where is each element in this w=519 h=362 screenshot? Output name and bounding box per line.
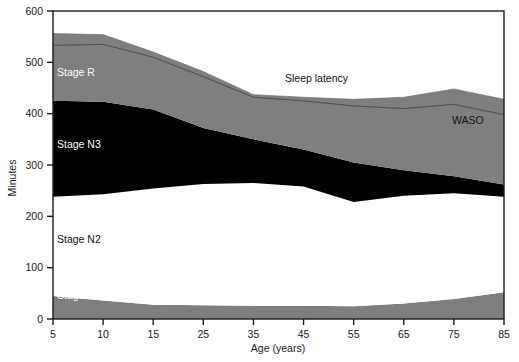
x-tick-label-55: 55 [348, 328, 360, 340]
y-axis-title: Minutes [6, 160, 18, 197]
stage-r-label: Stage R [57, 66, 95, 78]
stage-n2-area [53, 183, 504, 306]
y-tick-label-100: 100 [25, 261, 43, 273]
y-tick-label-200: 200 [25, 210, 43, 222]
y-tick-label-0: 0 [37, 313, 43, 325]
y-tick-label-500: 500 [25, 56, 43, 68]
y-tick-label-300: 300 [25, 159, 43, 171]
stage-n1-label: Stage N1 [57, 289, 101, 301]
x-tick-label-10: 10 [97, 328, 109, 340]
y-tick-label-600: 600 [25, 5, 43, 17]
x-tick-label-75: 75 [448, 328, 460, 340]
y-axis: 0100200300400500600 [25, 5, 53, 325]
x-tick-label-65: 65 [398, 328, 410, 340]
x-tick-label-5: 5 [50, 328, 56, 340]
x-axis: 5101525354555657585 [50, 319, 510, 340]
x-axis-title: Age (years) [251, 342, 305, 354]
y-tick-label-400: 400 [25, 107, 43, 119]
x-tick-label-25: 25 [197, 328, 209, 340]
chart-canvas: 0100200300400500600 5101525354555657585 … [0, 0, 519, 362]
waso-label: WASO [452, 114, 484, 126]
x-tick-label-45: 45 [298, 328, 310, 340]
sleep-latency-label: Sleep latency [285, 72, 349, 84]
stage-n2-label: Stage N2 [57, 233, 101, 245]
sleep-architecture-area-chart: 0100200300400500600 5101525354555657585 … [0, 0, 519, 362]
x-tick-label-35: 35 [248, 328, 260, 340]
x-tick-label-85: 85 [498, 328, 510, 340]
stage-n3-label: Stage N3 [57, 138, 101, 150]
x-tick-label-15: 15 [147, 328, 159, 340]
